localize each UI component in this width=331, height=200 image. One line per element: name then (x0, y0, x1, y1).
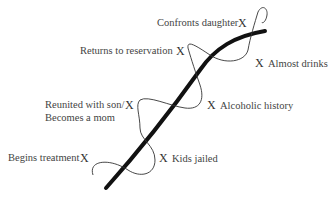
event-marker-alcoholic-history: X (207, 99, 216, 111)
event-label-alcoholic-history: Alcoholic history (220, 100, 293, 112)
event-marker-reunited-with-son: X (125, 99, 134, 111)
event-label-returns-to-reservation: Returns to reservation (80, 45, 173, 57)
event-label-kids-jailed: Kids jailed (172, 153, 218, 165)
event-marker-begins-treatment: X (80, 152, 89, 164)
event-marker-confronts-daughter: X (238, 17, 247, 29)
event-label-becomes-a-mom: Becomes a mom (45, 112, 115, 124)
event-label-begins-treatment: Begins treatment (8, 152, 79, 164)
event-label-reunited-with-son: Reunited with son/ (45, 99, 124, 111)
event-label-almost-drinks: Almost drinks (268, 58, 328, 70)
event-marker-almost-drinks: X (255, 57, 264, 69)
wavy-life-line (92, 8, 267, 175)
event-label-confronts-daughter: Confronts daughter (157, 17, 238, 29)
event-marker-kids-jailed: X (159, 152, 168, 164)
event-marker-returns-to-reservation: X (176, 45, 185, 57)
